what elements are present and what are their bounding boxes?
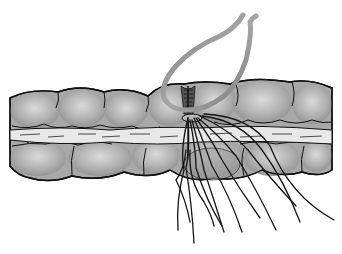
mesenteric-band (10, 126, 332, 144)
illustration-canvas: Illustration of a bowel (colon) segment … (0, 0, 342, 254)
bowel-suture-illustration (0, 0, 342, 254)
